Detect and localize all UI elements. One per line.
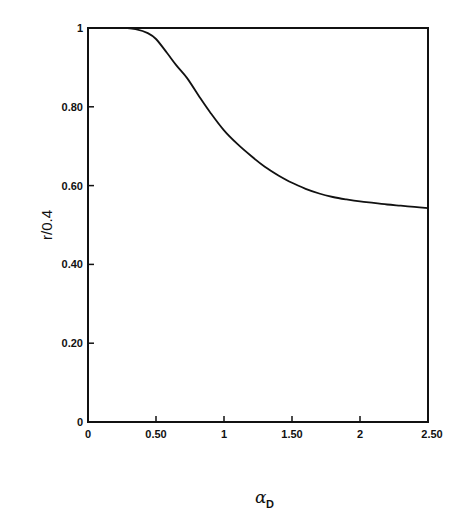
y-tick-label: 0.20 xyxy=(62,337,83,349)
x-tick-label: 1 xyxy=(221,428,227,440)
x-tick-label: 2 xyxy=(357,428,363,440)
data-series xyxy=(88,28,428,208)
x-tick-label: 0.50 xyxy=(145,428,166,440)
chart: 00.200.400.600.801 00.5011.5022.50 r/0.4… xyxy=(0,0,464,525)
y-tick-label: 0.80 xyxy=(62,101,83,113)
x-tick-label: 1.50 xyxy=(281,428,302,440)
x-tick-label: 2.50 xyxy=(421,428,442,440)
plot-border xyxy=(88,28,428,422)
y-axis-ticks: 00.200.400.600.801 xyxy=(62,22,94,428)
series-line xyxy=(88,28,428,208)
x-axis-label: α D xyxy=(255,487,274,510)
y-axis-label: r/0.4 xyxy=(38,210,55,240)
y-tick-label: 0 xyxy=(77,416,83,428)
x-axis-label-subscript: D xyxy=(266,498,274,510)
plot-frame xyxy=(88,28,428,422)
x-tick-label: 0 xyxy=(85,428,91,440)
y-tick-label: 0.60 xyxy=(62,180,83,192)
x-axis-ticks: 00.5011.5022.50 xyxy=(85,416,443,440)
y-tick-label: 1 xyxy=(77,22,83,34)
y-tick-label: 0.40 xyxy=(62,258,83,270)
